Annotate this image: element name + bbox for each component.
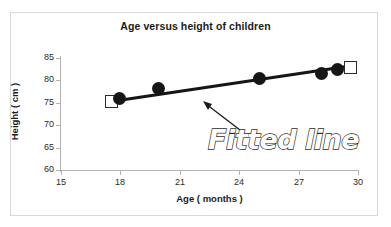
data-point-marker bbox=[253, 72, 266, 85]
fit-endpoint-marker-right bbox=[344, 61, 357, 74]
data-point-marker bbox=[331, 63, 344, 76]
data-point-marker bbox=[152, 82, 165, 95]
fitted-line-annotation-label: Fitted line bbox=[208, 124, 359, 155]
chart-screenshot: Age versus height of children 85 80 75 7… bbox=[0, 0, 391, 227]
data-point-marker bbox=[113, 92, 126, 105]
data-point-marker bbox=[315, 67, 328, 80]
